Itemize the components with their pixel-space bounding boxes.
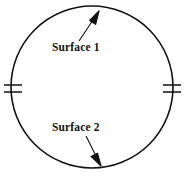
label-surface-2: Surface 2 — [52, 121, 100, 133]
label-surface-1: Surface 1 — [52, 41, 100, 53]
diagram-canvas: Surface 1 Surface 2 — [0, 0, 187, 178]
circle-surface-diagram: Surface 1 Surface 2 — [0, 0, 187, 178]
